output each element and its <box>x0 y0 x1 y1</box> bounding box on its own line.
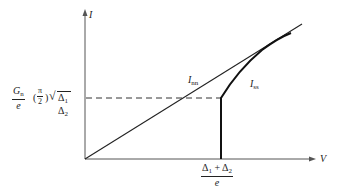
two: 2 <box>38 97 42 106</box>
pi: π <box>37 87 43 97</box>
gn-sub: n <box>20 90 24 98</box>
e-denominator: e <box>215 177 219 188</box>
paren-open: ( <box>33 92 36 103</box>
delta-2-sub: 2 <box>228 167 232 175</box>
curve-iss <box>221 33 291 159</box>
sqrt-content: Δ1 Δ2 <box>57 91 71 118</box>
pi-over-2-fraction: π 2 <box>37 87 43 106</box>
curve-label-iss: Iss <box>250 79 259 91</box>
curve-label-iss-sub: ss <box>253 83 258 91</box>
y-axis-label: I <box>89 10 92 20</box>
y-axis-arrow-icon <box>83 9 88 16</box>
curve-label-inn: Inn <box>188 75 198 87</box>
delta-2-sub: 2 <box>64 110 68 118</box>
x-axis-label: V <box>320 154 326 164</box>
x-marker-expression: Δ1 + Δ2 e <box>201 163 233 188</box>
e-denominator: e <box>16 100 20 111</box>
delta-1-sub: 1 <box>64 97 68 105</box>
sqrt-icon: √ <box>49 89 56 104</box>
gn-over-e-fraction: Gn e <box>12 86 25 111</box>
curve-label-inn-sub: nn <box>191 79 198 87</box>
x-axis-arrow-icon <box>309 157 316 162</box>
paren-close: ) <box>45 92 48 103</box>
plus-sign: + <box>212 162 222 173</box>
